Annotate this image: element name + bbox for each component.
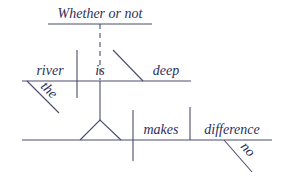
object-modifier-word: no [238,139,259,159]
main-verb-word: makes [144,122,180,137]
article-word: the [38,79,61,102]
conjunction-word: Whether or not [58,6,144,21]
clause-pedestal [80,120,121,140]
object-word: difference [204,122,259,137]
verb-word: is [95,63,105,78]
subject-word: river [36,63,64,78]
sentence-diagram: Whether or not river is deep the makes d… [0,0,289,179]
predicate-adjective-word: deep [153,63,179,78]
predicate-adjective-divider [113,50,143,81]
